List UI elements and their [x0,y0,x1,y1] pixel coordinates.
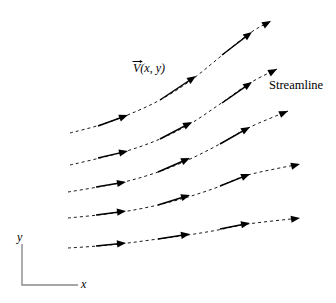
velocity-vector-arrowhead [240,221,250,228]
streamline-terminal-arrowhead [290,163,300,170]
velocity-vector-shaft [220,176,245,186]
velocity-vector-arrowhead [240,127,250,135]
streamline-terminal-arrowhead [278,111,288,118]
streamline-path [68,164,300,218]
streamline-terminal-arrowhead [267,69,277,76]
velocity-vector-arrowhead [180,158,190,165]
velocity-vector-shaft [158,196,185,205]
streamline-path [68,111,288,192]
streamline-figure: V (x, y) Streamline y x [0,0,336,303]
streamline-label: Streamline [269,79,323,92]
figure-canvas [0,0,336,303]
velocity-vector-arrowhead [243,32,252,40]
velocity-vector-shaft [98,117,123,126]
velocity-vector-shaft [222,35,248,55]
velocity-vectors-group [96,32,252,247]
velocity-vector-arrowhead [117,180,126,187]
streamline-path [70,69,277,165]
axis-label-x: x [81,278,86,290]
streamline-terminal-arrowhead [291,216,300,223]
velocity-vector-arrowhead [118,115,128,122]
velocity-vector-arrowhead [180,194,190,201]
velocity-vector-arrowhead [243,82,252,90]
velocity-symbol-text: V [133,61,140,75]
axis-label-y: y [17,231,22,243]
velocity-vector-shaft [220,129,246,144]
axis-corner-lines [22,244,78,285]
velocity-vector-arrowhead [182,122,192,129]
velocity-vector-arrowhead [181,232,190,239]
velocity-vector-arrowhead [117,209,126,216]
velocity-field-label: V (x, y) [133,62,165,74]
velocity-vector-shaft [158,235,185,239]
streamline-terminal-arrowhead [261,21,271,29]
velocity-vector-arrowhead [118,150,128,157]
velocity-vector-shaft [158,160,185,172]
axes-group [22,244,78,285]
velocity-vector-arrowhead [240,174,250,181]
velocity-vector-symbol: V [133,62,140,74]
velocity-vector-arrowhead [117,240,126,247]
velocity-vector-shaft [160,79,192,100]
velocity-args-text: (x, y) [140,61,165,75]
streamline-path [70,21,271,133]
velocity-vector-shaft [160,124,188,139]
velocity-vector-shaft [222,85,248,103]
